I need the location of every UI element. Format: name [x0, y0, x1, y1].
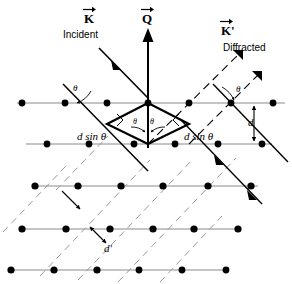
diffracted-wavevector-label: K'	[221, 24, 235, 37]
incident-arrowhead-main	[111, 60, 121, 70]
lattice-atom	[74, 182, 81, 189]
lattice-atom	[228, 100, 235, 107]
theta-arc-right	[222, 87, 234, 100]
diffracted-wavevector-symbol: K'	[221, 23, 235, 38]
lattice-atom	[19, 100, 26, 107]
oblique-plane-line-1	[3, 166, 66, 232]
central-angle-arc-left	[131, 127, 145, 132]
lattice-atom	[234, 225, 241, 232]
oblique-plane-line-2	[40, 160, 150, 276]
bragg-diffraction-figure: K Incident Q K' Diffracted θ θ θ θ d sin…	[0, 0, 292, 284]
oblique-plane-line-5	[160, 216, 222, 282]
lattice-atom	[145, 100, 152, 107]
lattice-atom	[172, 141, 179, 148]
oblique-spacing-arrow-upper	[62, 191, 80, 209]
lattice-atom	[149, 225, 156, 232]
scattering-vector-q-arrowhead	[143, 28, 154, 42]
theta-right-label: θ	[236, 85, 240, 94]
lattice-atom	[44, 141, 51, 148]
scattering-vector-label: Q	[142, 12, 152, 25]
lattice-atom	[131, 141, 138, 148]
lattice-atom	[215, 141, 222, 148]
lattice-atom	[7, 266, 14, 273]
lattice-atoms	[7, 100, 276, 274]
path-difference-right-label: d sin θ	[184, 131, 213, 142]
oblique-plane-line-3	[78, 160, 192, 280]
diffracted-caption: Diffracted	[223, 43, 266, 53]
lattice-atom	[186, 100, 193, 107]
lattice-atom	[204, 182, 211, 189]
incident-ray-main	[99, 48, 148, 98]
lattice-atom	[18, 225, 25, 232]
lattice-atom	[104, 100, 111, 107]
lattice-atom	[259, 141, 266, 148]
lattice-atom	[93, 266, 100, 273]
lattice-atom	[106, 225, 113, 232]
lattice-atom	[179, 267, 186, 274]
diffracted-beam-arrowheads	[233, 50, 262, 81]
lattice-atom	[62, 100, 69, 107]
incident-caption: Incident	[63, 30, 98, 40]
lattice-atom	[62, 225, 69, 232]
incident-wavevector-label: K	[84, 12, 94, 25]
oblique-spacing-indicator	[62, 191, 106, 243]
lattice-atom	[247, 182, 254, 189]
theta-center-right-label: θ	[150, 118, 154, 126]
theta-angle-right	[222, 87, 234, 100]
vector-arrow-icon	[141, 6, 154, 12]
vector-arrow-icon	[83, 6, 96, 12]
oblique-plane-lines	[3, 136, 236, 282]
theta-left-label: θ	[73, 84, 77, 93]
incident-arrowhead-lower-b	[247, 190, 257, 200]
incident-wavevector-symbol: K	[84, 11, 94, 26]
lattice-atom	[50, 266, 57, 273]
oblique-spacing-label: d'	[104, 243, 112, 254]
lattice-atom	[136, 267, 143, 274]
lattice-atom	[190, 225, 197, 232]
vector-arrow-icon	[220, 18, 233, 24]
scattering-vector-symbol: Q	[142, 11, 152, 26]
lattice-atom	[223, 267, 230, 274]
lattice-atom	[31, 182, 38, 189]
path-difference-left-label: d sin θ	[77, 131, 106, 142]
lattice-atom	[270, 100, 277, 107]
lattice-atom	[159, 182, 166, 189]
interplanar-spacing-label: d	[248, 117, 254, 128]
lattice-atom	[117, 182, 124, 189]
theta-center-left-label: θ	[133, 118, 137, 126]
